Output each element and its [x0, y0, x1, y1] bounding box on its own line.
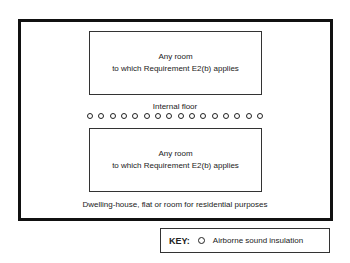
circle-icon	[223, 113, 229, 119]
circle-icon	[198, 237, 205, 244]
enclosure-caption: Dwelling-house, flat or room for residen…	[0, 200, 350, 209]
circle-icon	[155, 113, 161, 119]
circle-icon	[178, 113, 184, 119]
upper-room-box: Any room to which Requirement E2(b) appl…	[89, 31, 262, 95]
circle-icon	[98, 113, 104, 119]
circle-icon	[257, 113, 263, 119]
circle-icon	[144, 113, 150, 119]
circle-icon	[189, 113, 195, 119]
circle-icon	[132, 113, 138, 119]
lower-room-box: Any room to which Requirement E2(b) appl…	[89, 128, 262, 192]
circle-icon	[166, 113, 172, 119]
circle-icon	[212, 113, 218, 119]
circle-icon	[246, 113, 252, 119]
upper-room-line1: Any room	[158, 51, 192, 63]
circle-icon	[200, 113, 206, 119]
airborne-insulation-row	[87, 113, 263, 119]
internal-floor-label: Internal floor	[0, 102, 350, 111]
circle-icon	[121, 113, 127, 119]
lower-room-line2: to which Requirement E2(b) applies	[112, 160, 239, 172]
lower-room-line1: Any room	[158, 148, 192, 160]
circle-icon	[234, 113, 240, 119]
key-label: Airborne sound insulation	[213, 236, 303, 245]
key-title: KEY:	[169, 236, 190, 246]
upper-room-line2: to which Requirement E2(b) applies	[112, 63, 239, 75]
key-legend: KEY: Airborne sound insulation	[160, 228, 330, 253]
circle-icon	[110, 113, 116, 119]
circle-icon	[87, 113, 93, 119]
